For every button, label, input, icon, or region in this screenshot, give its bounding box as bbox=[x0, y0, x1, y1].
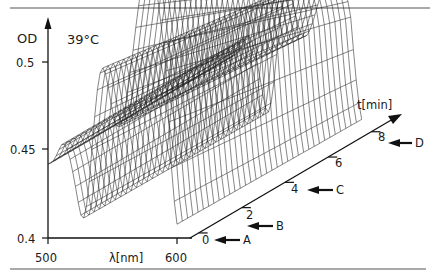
surface-plot bbox=[0, 0, 435, 280]
t-tick-0: 0 bbox=[202, 234, 209, 246]
figure: OD 39°C 0.5 0.45 0.4 500 λ[nm] 600 t[min… bbox=[0, 0, 435, 280]
t-tick-6: 6 bbox=[335, 157, 342, 169]
t-tick-4: 4 bbox=[291, 183, 298, 195]
time-axis-arrow-icon bbox=[388, 114, 402, 124]
marker-B: B bbox=[276, 220, 284, 232]
t-tick-2: 2 bbox=[246, 209, 253, 221]
y-tick-0.5: 0.5 bbox=[16, 57, 34, 69]
t-tick-8: 8 bbox=[378, 131, 385, 143]
x-tick-600: 600 bbox=[165, 252, 187, 264]
temperature-annotation: 39°C bbox=[67, 34, 99, 46]
time-axis bbox=[190, 119, 393, 238]
marker-A: A bbox=[243, 234, 251, 246]
marker-C: C bbox=[336, 184, 344, 196]
od-axis-label: OD bbox=[17, 33, 37, 45]
marker-D: D bbox=[415, 137, 424, 149]
y-tick-0.45: 0.45 bbox=[10, 144, 36, 156]
x-axis-label: λ[nm] bbox=[109, 252, 143, 264]
time-axis-label: t[min] bbox=[357, 99, 392, 111]
od-axis-arrow-icon bbox=[45, 17, 52, 29]
y-tick-0.4: 0.4 bbox=[17, 233, 35, 245]
x-tick-500: 500 bbox=[35, 252, 57, 264]
